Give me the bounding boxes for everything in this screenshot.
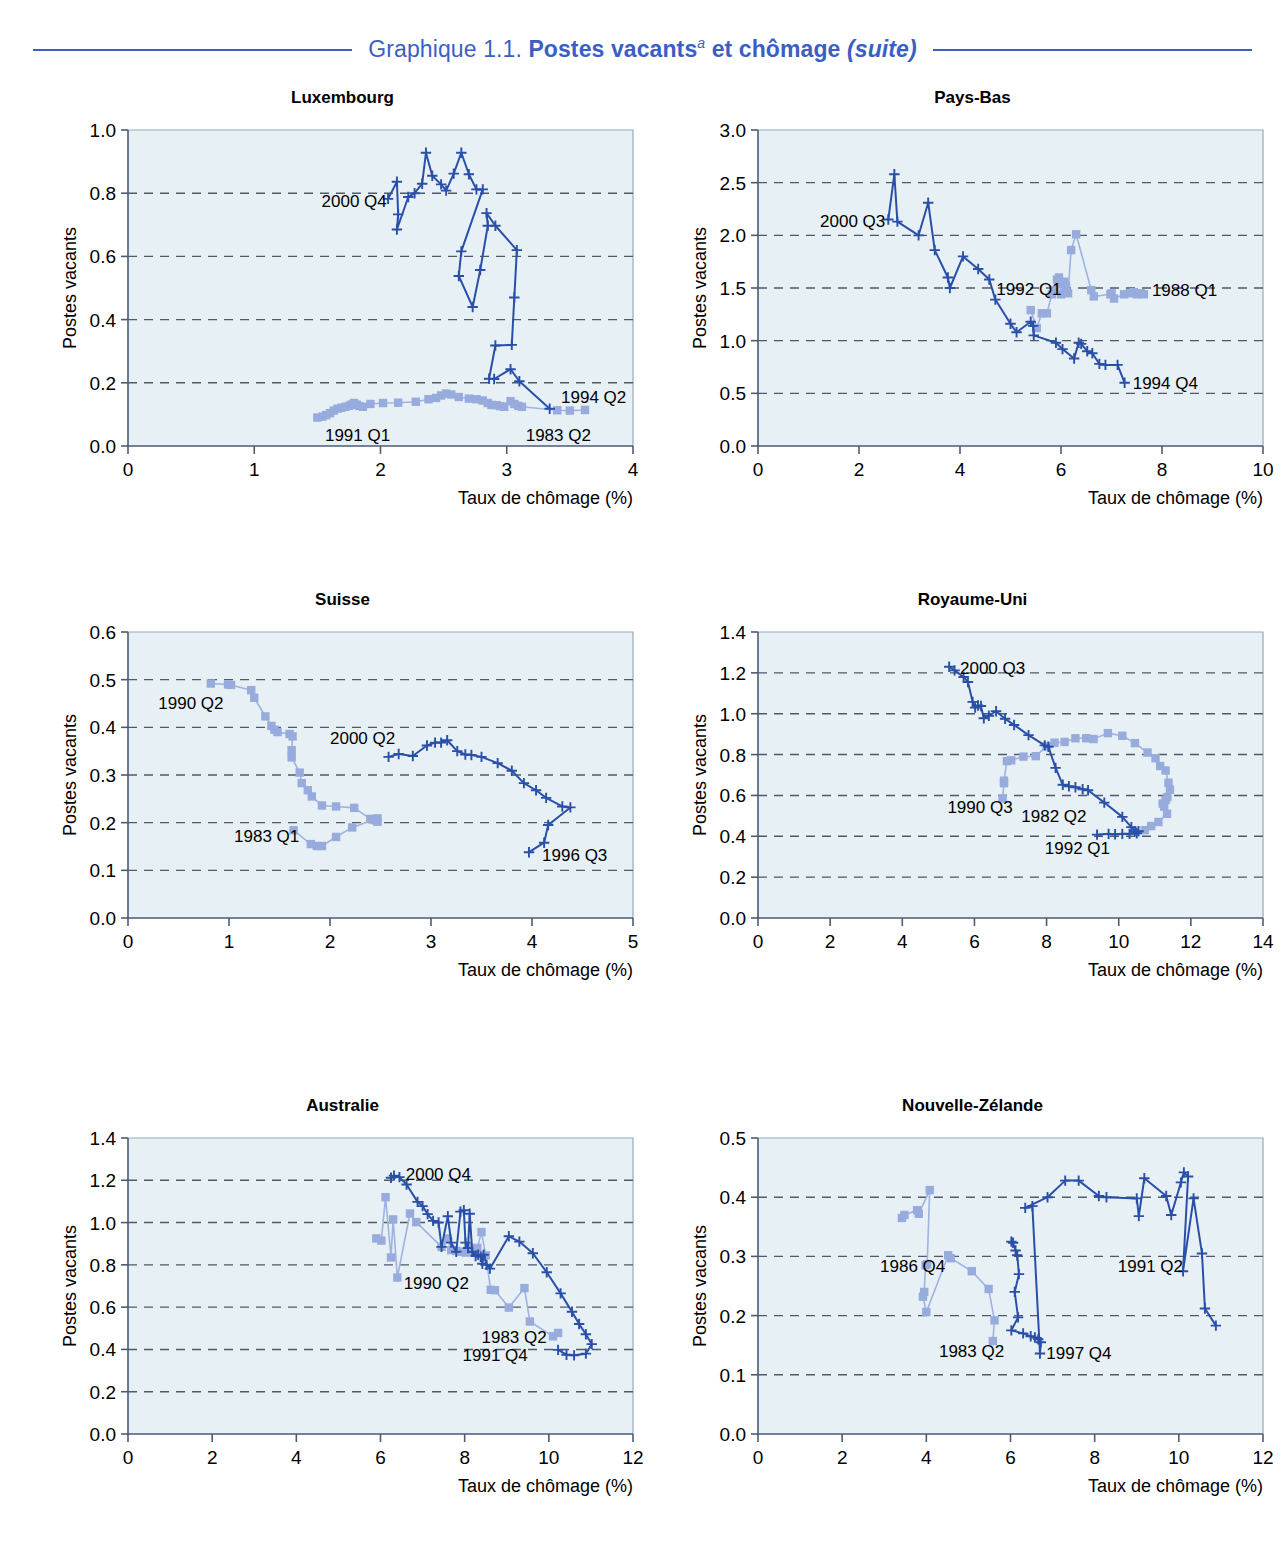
x-tick-label: 12 [1252, 1447, 1273, 1468]
y-axis-title: Postes vacants [60, 1225, 80, 1347]
x-tick-label: 2 [375, 459, 386, 480]
data-point-marker [1161, 766, 1169, 774]
data-point-marker [968, 1267, 976, 1275]
plot-area-5: 0.00.10.20.30.40.5024681012Postes vacant… [660, 1096, 1285, 1526]
y-tick-label: 0.8 [90, 183, 116, 204]
data-point-marker [1163, 810, 1171, 818]
x-tick-label: 12 [1180, 931, 1201, 952]
y-tick-label: 1.0 [90, 120, 116, 141]
annotation-label: 1983 Q2 [939, 1342, 1004, 1361]
annotation-label: 1991 Q4 [463, 1346, 528, 1365]
x-tick-label: 0 [753, 1447, 764, 1468]
data-point-marker [477, 1228, 485, 1236]
data-point-marker [273, 728, 281, 736]
x-tick-label: 2 [825, 931, 836, 952]
data-point-marker [387, 1253, 395, 1261]
x-tick-label: 4 [955, 459, 966, 480]
annotation-label: 1983 Q2 [526, 426, 591, 445]
x-tick-label: 4 [291, 1447, 302, 1468]
y-tick-label: 0.2 [720, 1306, 746, 1327]
x-tick-label: 0 [123, 931, 134, 952]
x-tick-label: 10 [1252, 459, 1273, 480]
annotation-label: 1992 Q1 [996, 280, 1061, 299]
annotation-label: 1991 Q1 [325, 426, 390, 445]
header-rule-right [933, 49, 1252, 51]
x-axis-title: Taux de chômage (%) [1088, 1476, 1263, 1496]
y-tick-label: 0.0 [720, 436, 746, 457]
y-tick-label: 0.5 [90, 670, 116, 691]
y-axis-title: Postes vacants [690, 227, 710, 349]
data-point-marker [318, 801, 326, 809]
data-point-marker [566, 406, 574, 414]
data-point-marker [1043, 309, 1051, 317]
data-point-marker [922, 1308, 930, 1316]
y-axis-title: Postes vacants [60, 714, 80, 836]
y-tick-label: 0.1 [720, 1365, 746, 1386]
x-tick-label: 2 [837, 1447, 848, 1468]
data-point-marker [1151, 754, 1159, 762]
data-point-marker [247, 686, 255, 694]
y-tick-label: 1.5 [720, 278, 746, 299]
panel-suisse: Suisse 0.00.10.20.30.40.50.6012345Postes… [30, 590, 655, 1010]
data-point-marker [1090, 292, 1098, 300]
x-axis-title: Taux de chômage (%) [1088, 488, 1263, 508]
x-tick-label: 10 [538, 1447, 559, 1468]
x-tick-label: 6 [375, 1447, 386, 1468]
y-tick-label: 0.4 [720, 826, 747, 847]
data-point-marker [1143, 748, 1151, 756]
annotation-label: 1991 Q2 [1118, 1257, 1183, 1276]
data-point-marker [505, 1303, 513, 1311]
y-axis-title: Postes vacants [690, 714, 710, 836]
data-point-marker [1000, 777, 1008, 785]
annotation-label: 1994 Q2 [561, 388, 626, 407]
panel-luxembourg: Luxembourg 0.00.20.40.60.81.001234Postes… [30, 88, 655, 538]
data-point-marker [919, 1292, 927, 1300]
x-tick-label: 14 [1252, 931, 1274, 952]
y-tick-label: 0.4 [90, 310, 117, 331]
data-point-marker [581, 406, 589, 414]
y-tick-label: 0.3 [90, 765, 116, 786]
y-tick-label: 0.0 [90, 1424, 116, 1445]
data-point-marker [1140, 290, 1148, 298]
y-tick-label: 1.4 [90, 1128, 117, 1149]
x-axis-title: Taux de chômage (%) [458, 1476, 633, 1496]
chart-svg-0: 0.00.20.40.60.81.001234Postes vacantsTau… [30, 88, 655, 538]
y-tick-label: 0.6 [90, 246, 116, 267]
y-axis-title: Postes vacants [690, 1225, 710, 1347]
data-point-marker [447, 390, 455, 398]
data-point-marker [389, 1215, 397, 1223]
data-point-marker [332, 833, 340, 841]
x-tick-label: 4 [628, 459, 639, 480]
x-tick-label: 12 [622, 1447, 643, 1468]
data-point-marker [296, 768, 304, 776]
chart-svg-4: 0.00.20.40.60.81.01.21.4024681012Postes … [30, 1096, 655, 1526]
data-point-marker [990, 1316, 998, 1324]
data-point-marker [287, 753, 295, 761]
data-point-marker [227, 681, 235, 689]
annotation-label: 1983 Q1 [234, 827, 299, 846]
data-point-marker [1160, 802, 1168, 810]
y-tick-label: 0.0 [90, 908, 116, 929]
x-tick-label: 4 [527, 931, 538, 952]
annotation-label: 1988 Q1 [1152, 281, 1217, 300]
y-tick-label: 1.4 [720, 622, 747, 643]
x-tick-label: 2 [207, 1447, 218, 1468]
data-point-marker [900, 1211, 908, 1219]
data-point-marker [412, 1218, 420, 1226]
data-point-marker [377, 1236, 385, 1244]
data-point-marker [250, 694, 258, 702]
data-point-marker [261, 712, 269, 720]
title-bold: Postes vacants [528, 36, 697, 62]
plot-area-2: 0.00.10.20.30.40.50.6012345Postes vacant… [30, 590, 655, 1010]
data-point-marker [926, 1186, 934, 1194]
annotation-label: 2000 Q3 [960, 659, 1025, 678]
data-point-marker [491, 1286, 499, 1294]
chart-svg-5: 0.00.10.20.30.40.5024681012Postes vacant… [660, 1096, 1285, 1526]
data-point-marker [288, 732, 296, 740]
title-suite: (suite) [847, 36, 917, 62]
data-point-marker [1118, 732, 1126, 740]
data-point-marker [947, 1254, 955, 1262]
annotation-label: 1990 Q2 [404, 1274, 469, 1293]
data-point-marker [412, 398, 420, 406]
annotation-label: 1990 Q3 [947, 798, 1012, 817]
